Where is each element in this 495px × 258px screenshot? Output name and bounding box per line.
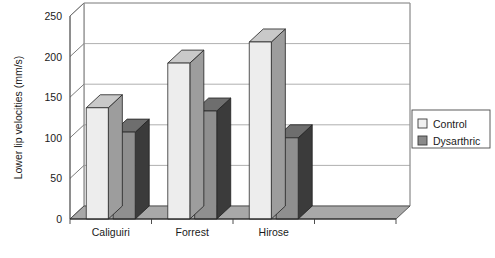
bar-chart: 050100150200250CaliguiriForrestHiroseLow… — [0, 0, 495, 258]
y-axis-title: Lower lip velocities (mm/s) — [12, 56, 24, 180]
x-category-label-1: Forrest — [176, 226, 209, 238]
y-tick-label-100: 100 — [44, 132, 62, 144]
legend-label-dysarthric: Dysarthric — [433, 135, 480, 147]
dysarthric-bar-2-side — [298, 125, 312, 219]
y-tick-label-50: 50 — [50, 172, 62, 184]
x-category-label-0: Caliguiri — [92, 226, 130, 238]
control-bar-2-face — [249, 42, 271, 219]
control-bar-0-side — [108, 95, 122, 219]
y-tick-label-150: 150 — [44, 91, 62, 103]
legend-swatch-control — [418, 119, 427, 128]
dysarthric-bar-0-side — [135, 119, 149, 219]
legend-swatch-dysarthric — [418, 136, 427, 145]
y-tick-label-200: 200 — [44, 51, 62, 63]
control-bar-2-side — [271, 29, 285, 219]
control-bar-1-side — [190, 50, 204, 219]
dysarthric-bar-1-side — [217, 98, 231, 219]
x-category-label-2: Hirose — [259, 226, 290, 238]
plot-side-wall — [70, 3, 84, 219]
control-bar-1-face — [168, 63, 190, 219]
y-tick-label-0: 0 — [56, 213, 62, 225]
control-bar-0-face — [86, 108, 108, 219]
legend-label-control: Control — [433, 118, 467, 130]
chart-canvas: 050100150200250CaliguiriForrestHiroseLow… — [0, 0, 495, 258]
y-tick-label-250: 250 — [44, 10, 62, 22]
